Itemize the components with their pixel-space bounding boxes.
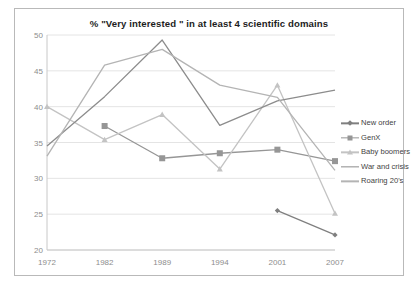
data-point-marker [332, 232, 337, 237]
x-tick-label: 1994 [211, 258, 229, 267]
y-tick-label: 50 [34, 31, 43, 40]
legend-label: Baby boomers [361, 148, 410, 156]
legend-swatch-icon [341, 176, 359, 186]
legend-label: Roaring 20's [361, 177, 403, 185]
legend-item-baby-boomers[interactable]: Baby boomers [341, 145, 418, 160]
y-tick-label: 45 [34, 66, 43, 75]
y-tick-label: 40 [34, 102, 43, 111]
plot-svg [47, 35, 335, 250]
x-tick-label: 1989 [153, 258, 171, 267]
data-point-marker [159, 155, 165, 161]
series-line [47, 40, 335, 146]
series-line [47, 85, 335, 213]
chart-frame: % "Very interested " in at least 4 scien… [14, 8, 404, 276]
series-baby-boomers [44, 82, 338, 216]
legend-swatch-icon [341, 118, 359, 128]
data-point-marker [274, 147, 280, 153]
legend-item-new-order[interactable]: New order [341, 116, 418, 131]
legend-label: New order [361, 119, 396, 127]
legend-swatch-icon [341, 162, 359, 172]
x-tick-label: 2001 [268, 258, 286, 267]
legend-label: War and crisis [361, 163, 409, 171]
data-point-marker [159, 112, 165, 117]
y-tick-label: 25 [34, 210, 43, 219]
data-point-marker [217, 150, 223, 156]
data-point-marker [274, 82, 280, 87]
data-point-marker [275, 208, 280, 213]
legend-item-roaring-20-s[interactable]: Roaring 20's [341, 174, 418, 189]
chart-title: % "Very interested " in at least 4 scien… [15, 18, 403, 29]
plot-area: 20253035404550 197219821989199420012007 [47, 35, 335, 250]
chart-legend: New orderGenXBaby boomersWar and crisisR… [341, 116, 418, 189]
legend-item-war-and-crisis[interactable]: War and crisis [341, 160, 418, 175]
data-point-marker [332, 158, 338, 164]
series-war-and-crisis [47, 40, 335, 146]
x-tick-label: 2007 [326, 258, 344, 267]
y-tick-label: 35 [34, 138, 43, 147]
series-new-order [275, 208, 338, 238]
y-tick-label: 30 [34, 174, 43, 183]
legend-label: GenX [361, 134, 380, 142]
legend-swatch-icon [341, 133, 359, 143]
x-tick-label: 1982 [96, 258, 114, 267]
data-point-marker [102, 123, 108, 129]
data-point-marker [332, 210, 338, 215]
y-tick-label: 20 [34, 246, 43, 255]
legend-swatch-icon [341, 147, 359, 157]
x-tick-label: 1972 [38, 258, 56, 267]
legend-item-genx[interactable]: GenX [341, 131, 418, 146]
